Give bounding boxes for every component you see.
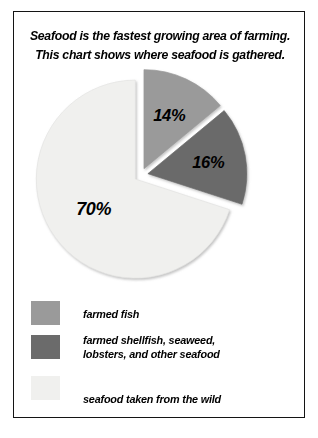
legend-swatch-wild-seafood bbox=[31, 376, 60, 400]
legend-swatch-farmed-fish bbox=[31, 301, 60, 325]
legend-label-farmed-shellfish-line2: lobsters, and other seafood bbox=[83, 347, 220, 362]
legend-item-farmed-shellfish[interactable]: farmed shellfish, seaweed, lobsters, and… bbox=[31, 335, 289, 373]
legend-item-wild-seafood[interactable]: seafood taken from the wild bbox=[31, 376, 289, 410]
headline-line-1: Seafood is the fastest growing area of f… bbox=[24, 26, 296, 45]
legend-item-farmed-fish[interactable]: farmed fish bbox=[31, 301, 289, 331]
headline-line-2: This chart shows where seafood is gather… bbox=[24, 45, 296, 64]
legend-label-wild-seafood: seafood taken from the wild bbox=[83, 392, 221, 407]
legend-label-farmed-shellfish-line1: farmed shellfish, seaweed, bbox=[83, 333, 215, 348]
legend-swatch-farmed-shellfish bbox=[31, 335, 60, 359]
legend-label-farmed-fish: farmed fish bbox=[83, 307, 139, 322]
chart-card: Seafood is the fastest growing area of f… bbox=[13, 11, 305, 418]
page-title: Seafood is the fastest growing area of f… bbox=[14, 26, 306, 64]
